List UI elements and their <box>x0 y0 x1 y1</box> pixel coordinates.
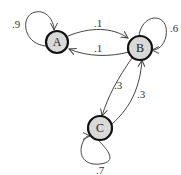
edge-label-B-A: .1 <box>94 42 102 54</box>
node-C: C <box>88 116 112 140</box>
node-label-A: A <box>53 35 62 49</box>
node-B: B <box>128 36 152 60</box>
edge-label-B-B: .6 <box>170 22 179 34</box>
edge-label-A-B: .1 <box>94 17 102 29</box>
edge-label-C-B: .3 <box>137 88 146 100</box>
node-A: A <box>46 31 68 53</box>
edge-label-C-C: .7 <box>96 164 105 175</box>
node-label-B: B <box>136 41 144 55</box>
edge-A-B <box>68 29 128 38</box>
markov-chain-diagram: .9 .1 .1 .6 .3 .3 .7 A B C <box>0 0 181 175</box>
node-label-C: C <box>96 121 104 135</box>
edge-label-B-C: .3 <box>114 79 123 91</box>
edge-label-A-A: .9 <box>12 18 21 30</box>
